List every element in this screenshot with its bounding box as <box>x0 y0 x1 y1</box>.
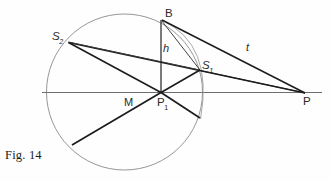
segment-label-t: t <box>246 42 249 53</box>
segment-label-h: h <box>163 43 169 54</box>
point-label-b: B <box>165 8 173 20</box>
point-label-m: M <box>124 97 133 108</box>
point-label-s2-subscript: 2 <box>59 38 63 46</box>
point-label-s1: S1 <box>202 60 214 74</box>
point-label-p1-subscript: 1 <box>164 104 168 112</box>
point-label-s2: S2 <box>52 31 64 45</box>
geometry-drawing <box>0 0 331 182</box>
figure-canvas: B S2 S1 P1 P M h t Fig. 14 <box>0 0 331 182</box>
segment-P1-lower-left <box>72 93 161 146</box>
segment-S2-P <box>69 43 306 94</box>
point-label-p: P <box>303 96 311 108</box>
point-label-p1: P1 <box>157 97 169 111</box>
segment-S2-S1 <box>69 42 201 70</box>
segment-P1-S1 <box>161 70 200 93</box>
point-label-s1-subscript: 1 <box>209 67 213 75</box>
segment-S2-P1 <box>69 43 162 93</box>
segment-t-B-P <box>162 20 305 93</box>
figure-caption: Fig. 14 <box>5 148 42 163</box>
